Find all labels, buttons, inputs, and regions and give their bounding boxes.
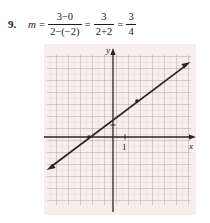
fraction-2-denominator: 2+2 (94, 26, 114, 37)
fraction-2-bar (94, 24, 114, 25)
fraction-3-numerator: 3 (126, 11, 135, 22)
variable-m: m (28, 18, 36, 30)
point-marker-a (87, 135, 91, 139)
x-axis-unit-label: 1 (122, 142, 127, 152)
fraction-2: 3 2+2 (94, 11, 114, 36)
problem-statement: 9. m = 3−0 2−(−2) = 3 2+2 = 3 4 (0, 6, 210, 42)
fraction-2-numerator: 3 (99, 11, 108, 22)
slope-equation: m = 3−0 2−(−2) = 3 2+2 = 3 4 (28, 11, 136, 36)
fraction-1-numerator: 3−0 (55, 11, 75, 22)
coordinate-graph: y x 1 (44, 44, 196, 215)
fraction-3-bar (126, 24, 135, 25)
x-axis-label: x (188, 141, 193, 151)
equals-sign-2: = (85, 18, 91, 30)
equals-sign-1: = (39, 18, 45, 30)
problem-number: 9. (8, 18, 22, 30)
fraction-1-bar (48, 24, 81, 25)
fraction-1-denominator: 2−(−2) (48, 26, 81, 37)
coordinate-graph-panel: y x 1 (44, 44, 196, 215)
point-marker-b (135, 99, 139, 103)
y-axis-label: y (105, 45, 110, 55)
equals-sign-3: = (117, 18, 123, 30)
fraction-1: 3−0 2−(−2) (48, 11, 81, 36)
fraction-3: 3 4 (126, 11, 135, 36)
fraction-3-denominator: 4 (126, 26, 135, 37)
